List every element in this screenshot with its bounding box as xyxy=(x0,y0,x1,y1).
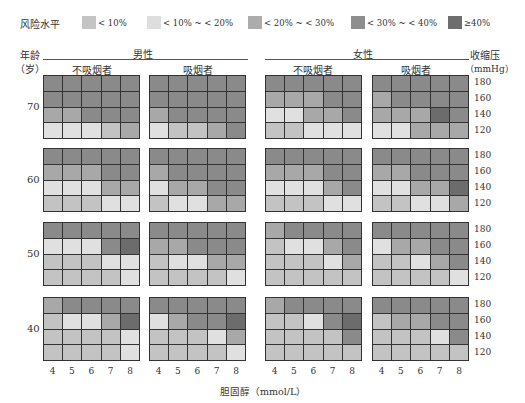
risk-cell xyxy=(431,123,449,138)
risk-cell xyxy=(188,165,206,180)
risk-cell xyxy=(285,76,303,91)
risk-cell xyxy=(150,181,168,196)
risk-cell xyxy=(450,345,468,360)
risk-cell xyxy=(169,92,187,107)
risk-cell xyxy=(208,123,226,138)
risk-cell xyxy=(169,270,187,285)
risk-cell xyxy=(63,223,81,238)
risk-cell xyxy=(227,223,245,238)
legend-label-10-20: < 10% ~ < 20% xyxy=(163,18,233,28)
risk-cell xyxy=(343,345,361,360)
risk-cell xyxy=(150,330,168,345)
grid-male-nonsmoker-age-40 xyxy=(43,297,140,361)
risk-cell xyxy=(150,76,168,91)
risk-cell xyxy=(102,270,120,285)
risk-cell xyxy=(44,108,62,123)
cholesterol-tick-5: 5 xyxy=(168,366,187,376)
risk-cell xyxy=(102,165,120,180)
risk-cell xyxy=(266,223,284,238)
cholesterol-tick-8: 8 xyxy=(121,366,140,376)
grid-female-smoker-age-50 xyxy=(372,222,469,286)
risk-cell xyxy=(44,330,62,345)
risk-cell xyxy=(411,330,429,345)
risk-cell xyxy=(150,165,168,180)
risk-cell xyxy=(392,270,410,285)
risk-cell xyxy=(188,270,206,285)
risk-cell xyxy=(343,149,361,164)
risk-cell xyxy=(266,239,284,254)
risk-cell xyxy=(431,239,449,254)
risk-cell xyxy=(304,239,322,254)
risk-cell xyxy=(102,108,120,123)
risk-cell xyxy=(324,76,342,91)
risk-cell xyxy=(44,345,62,360)
risk-cell xyxy=(188,149,206,164)
risk-cell xyxy=(431,149,449,164)
risk-cell xyxy=(63,123,81,138)
risk-cell xyxy=(227,196,245,211)
risk-cell xyxy=(169,76,187,91)
risk-cell xyxy=(44,255,62,270)
risk-cell xyxy=(208,196,226,211)
risk-cell xyxy=(343,123,361,138)
risk-cell xyxy=(227,298,245,313)
risk-cell xyxy=(82,223,100,238)
risk-cell xyxy=(208,255,226,270)
risk-cell xyxy=(343,196,361,211)
risk-cell xyxy=(304,298,322,313)
risk-cell xyxy=(450,255,468,270)
risk-cell xyxy=(324,298,342,313)
risk-cell xyxy=(188,330,206,345)
legend-swatch-10-20 xyxy=(147,16,161,29)
grid-female-smoker-age-60 xyxy=(372,148,469,212)
risk-cell xyxy=(373,345,391,360)
risk-cell xyxy=(450,92,468,107)
risk-cell xyxy=(343,270,361,285)
risk-cell xyxy=(285,149,303,164)
grid-male-smoker-age-60 xyxy=(149,148,246,212)
risk-cell xyxy=(102,239,120,254)
risk-cell xyxy=(121,223,139,238)
risk-cell xyxy=(343,76,361,91)
risk-cell xyxy=(102,196,120,211)
risk-cell xyxy=(266,345,284,360)
risk-cell xyxy=(82,239,100,254)
age-label-40: 40 xyxy=(27,323,40,334)
risk-cell xyxy=(266,123,284,138)
risk-cell xyxy=(102,181,120,196)
cholesterol-tick-5: 5 xyxy=(284,366,303,376)
risk-cell xyxy=(150,108,168,123)
risk-cell xyxy=(431,298,449,313)
risk-cell xyxy=(188,314,206,329)
risk-cell xyxy=(188,123,206,138)
grid-male-smoker-age-50 xyxy=(149,222,246,286)
risk-cell xyxy=(208,239,226,254)
risk-cell xyxy=(208,330,226,345)
risk-cell xyxy=(121,298,139,313)
risk-cell xyxy=(431,196,449,211)
risk-cell xyxy=(304,314,322,329)
risk-cell xyxy=(169,181,187,196)
risk-cell xyxy=(150,196,168,211)
risk-cell xyxy=(188,345,206,360)
risk-cell xyxy=(324,165,342,180)
risk-cell xyxy=(285,181,303,196)
risk-cell xyxy=(121,239,139,254)
risk-cell xyxy=(121,108,139,123)
cholesterol-tick-5: 5 xyxy=(391,366,410,376)
risk-cell xyxy=(392,123,410,138)
risk-cell xyxy=(227,181,245,196)
cholesterol-tick-5: 5 xyxy=(62,366,81,376)
risk-cell xyxy=(227,330,245,345)
risk-cell xyxy=(227,149,245,164)
bp-tick-120: 120 xyxy=(474,272,491,282)
risk-cell xyxy=(82,165,100,180)
risk-cell xyxy=(266,181,284,196)
risk-cell xyxy=(227,270,245,285)
male-header-rule xyxy=(43,59,248,60)
risk-cell xyxy=(411,345,429,360)
cholesterol-tick-4: 4 xyxy=(43,366,62,376)
risk-cell xyxy=(266,108,284,123)
risk-cell xyxy=(44,298,62,313)
risk-cell xyxy=(304,123,322,138)
